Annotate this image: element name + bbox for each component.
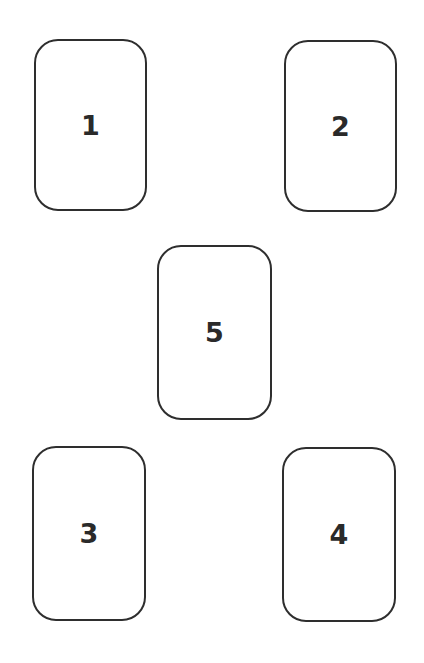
card-position-1: 1 (34, 39, 147, 211)
card-position-2: 2 (284, 40, 397, 212)
card-number: 1 (81, 112, 100, 139)
card-position-5: 5 (157, 245, 272, 420)
card-position-4: 4 (282, 447, 396, 622)
card-number: 2 (331, 113, 350, 140)
card-position-3: 3 (32, 446, 146, 621)
card-number: 5 (205, 319, 224, 346)
card-number: 4 (330, 521, 349, 548)
card-number: 3 (80, 520, 99, 547)
